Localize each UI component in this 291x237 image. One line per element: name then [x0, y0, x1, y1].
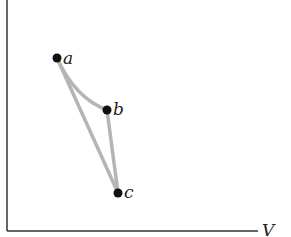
pv-diagram: V a b c [0, 0, 291, 237]
x-axis-label: V [262, 220, 276, 237]
point-c [114, 189, 123, 198]
point-b-label: b [113, 99, 124, 119]
point-a [53, 54, 62, 63]
point-a-label: a [63, 48, 73, 68]
point-b [103, 106, 112, 115]
point-c-label: c [124, 182, 134, 202]
